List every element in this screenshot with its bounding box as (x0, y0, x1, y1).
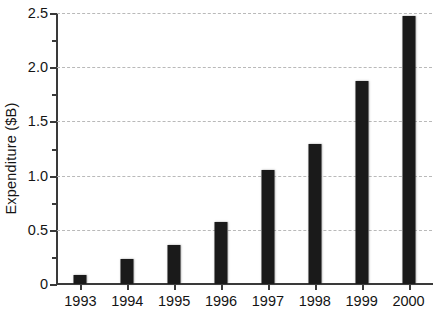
y-axis-tick-major (50, 230, 57, 232)
bar (308, 144, 321, 284)
gridline (57, 67, 432, 68)
x-axis-tick-label: 1997 (252, 293, 284, 309)
y-axis-tick-major (50, 67, 57, 69)
bar (355, 81, 368, 284)
bar (74, 275, 87, 284)
y-axis-tick-minor (52, 40, 57, 42)
x-axis-tick-label: 1999 (346, 293, 378, 309)
x-axis-tick-label: 2000 (392, 293, 424, 309)
plot-area: 00.51.01.52.02.5 19931994199519961997199… (57, 13, 432, 284)
y-axis-tick-label: 0 (40, 276, 48, 292)
y-axis-tick-minor (52, 257, 57, 259)
x-axis-tick (174, 284, 176, 290)
y-axis-tick-minor (52, 94, 57, 96)
gridline (57, 121, 432, 122)
x-axis-tick (127, 284, 129, 290)
x-axis-tick (409, 284, 411, 290)
y-axis-title: Expenditure ($B) (0, 0, 22, 317)
y-axis-tick-label: 0.5 (28, 222, 48, 238)
bar (168, 245, 181, 284)
y-axis-tick-major (50, 121, 57, 123)
y-axis-tick-label: 2.0 (28, 59, 48, 75)
bar (261, 170, 274, 284)
x-axis-line (56, 283, 433, 285)
x-axis-tick (315, 284, 317, 290)
y-axis-tick-minor (52, 203, 57, 205)
x-axis-tick-label: 1993 (64, 293, 96, 309)
x-axis-tick-label: 1994 (111, 293, 143, 309)
y-axis-tick-major (50, 13, 57, 15)
bar (215, 222, 228, 284)
y-axis-tick-label: 2.5 (28, 5, 48, 21)
gridline (57, 13, 432, 14)
gridline (57, 230, 432, 231)
x-axis-tick (362, 284, 364, 290)
x-axis-tick (268, 284, 270, 290)
x-axis-tick-label: 1996 (205, 293, 237, 309)
x-axis-tick (80, 284, 82, 290)
x-axis-tick-label: 1998 (299, 293, 331, 309)
y-axis-tick-label: 1.0 (28, 168, 48, 184)
gridline (57, 176, 432, 177)
bar (402, 16, 415, 284)
y-axis-tick-minor (52, 149, 57, 151)
y-axis-tick-label: 1.5 (28, 113, 48, 129)
bar-chart-figure: Expenditure ($B) 00.51.01.52.02.5 199319… (0, 0, 435, 317)
y-axis-tick-major (50, 176, 57, 178)
x-axis-tick (221, 284, 223, 290)
bar (121, 259, 134, 284)
x-axis-tick-label: 1995 (158, 293, 190, 309)
y-axis-tick-major (50, 284, 57, 286)
